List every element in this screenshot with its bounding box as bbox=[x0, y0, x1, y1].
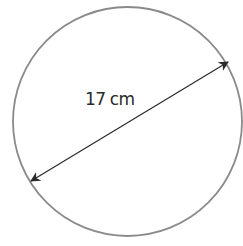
circle-diagram: 17cm bbox=[0, 0, 243, 246]
diameter-label: 17cm bbox=[85, 89, 135, 109]
diameter-value: 17 bbox=[85, 89, 106, 109]
diameter-unit: cm bbox=[110, 89, 135, 109]
diameter-arrow bbox=[31, 62, 228, 181]
circle-outline bbox=[13, 7, 242, 236]
circle-diagram-svg bbox=[0, 0, 243, 246]
